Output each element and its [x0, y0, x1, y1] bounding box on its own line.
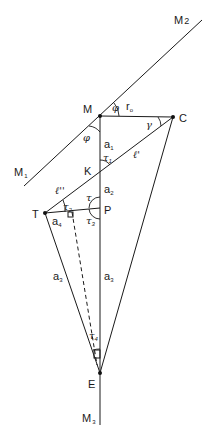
geometry-diagram: M C K P T E M2 M1 M3 ro a1 a2 a3 a3 a4 ℓ… [0, 0, 206, 437]
point-t [43, 211, 47, 215]
point-e [98, 371, 102, 375]
label-segment-r0: ro [126, 100, 134, 113]
label-angle-gamma: γ [146, 119, 152, 130]
angle-arc-gamma [158, 117, 161, 126]
label-angle-tau: τ [86, 192, 92, 203]
label-point-t: T [32, 208, 39, 220]
angle-arc-phi-left [89, 126, 100, 132]
point-c [171, 115, 175, 119]
label-point-c: C [179, 112, 187, 124]
label-segment-l-prime: ℓ' [133, 149, 140, 160]
segment-te-a3 [45, 213, 100, 373]
label-line-m1: M1 [14, 166, 28, 179]
label-segment-a4: a4 [52, 215, 62, 228]
label-line-m2: M2 [174, 14, 189, 26]
label-line-m3: M3 [82, 412, 96, 425]
segment-mc-r0 [100, 116, 173, 117]
segment-dashed-perpendicular [72, 212, 97, 365]
label-segment-a3-right: a3 [104, 270, 114, 283]
label-segment-l-double-prime: ℓ'' [55, 185, 65, 196]
label-point-e: E [88, 378, 95, 390]
label-segment-a3-left: a3 [53, 270, 63, 283]
label-angle-phi-top: φ [112, 102, 119, 113]
label-angle-phi-left: φ [83, 132, 90, 143]
label-segment-a1: a1 [104, 138, 114, 151]
label-segment-a2: a2 [104, 183, 114, 196]
label-point-p: P [104, 204, 111, 216]
label-point-m: M [83, 103, 92, 115]
point-m [98, 114, 102, 118]
segment-ct-lprime [45, 117, 173, 213]
label-angle-tau2: τ2 [63, 201, 73, 213]
label-point-k: K [84, 165, 92, 177]
label-angle-tau1: τ1 [103, 152, 112, 164]
label-angle-tau4: τ4 [89, 330, 99, 342]
